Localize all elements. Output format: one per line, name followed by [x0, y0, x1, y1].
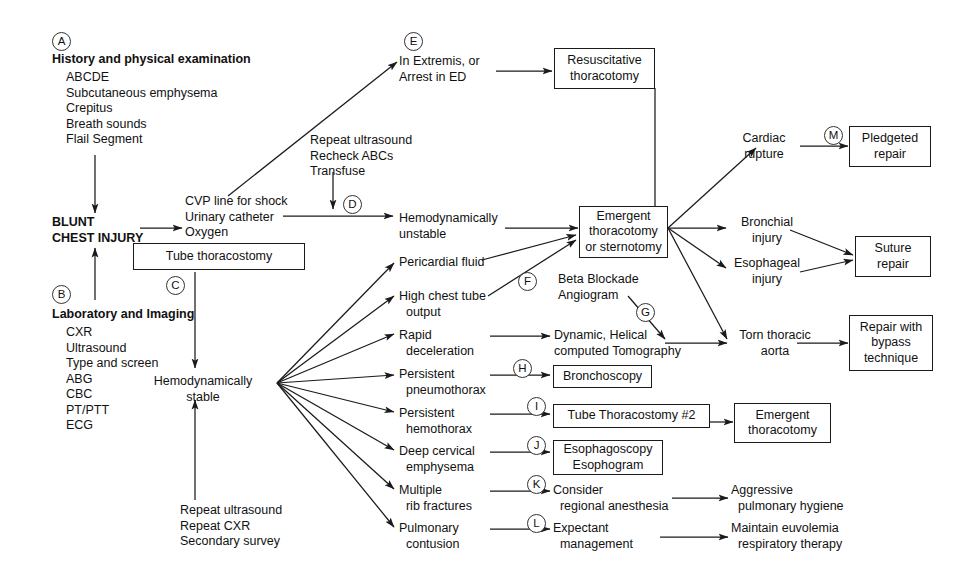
beta-blockade-angiogram-label: Beta Blockade Angiogram — [558, 272, 639, 303]
key-circle-l: L — [527, 514, 546, 533]
pledgeted-repair-box[interactable]: Pledgeted repair — [849, 126, 931, 167]
persistent-pneumothorax-label: Persistent pneumothorax — [399, 367, 486, 398]
key-circle-a: A — [52, 32, 71, 51]
esophageal-injury-label: Esophageal injury — [723, 256, 811, 287]
history-items: ABCDE Subcutaneous emphysema Crepitus Br… — [52, 70, 217, 148]
key-circle-m: M — [824, 126, 843, 145]
expectant-management-label: Expectant management — [553, 521, 633, 552]
cardiac-rupture-label: Cardiac rupture — [724, 131, 804, 162]
flowchart-canvas: A History and physical examination ABCDE… — [0, 0, 978, 585]
blunt-chest-injury-label: BLUNT CHEST INJURY — [52, 215, 143, 246]
deep-cervical-emphysema-label: Deep cervical emphysema — [399, 444, 475, 475]
key-circle-j: J — [527, 436, 546, 455]
key-circle-e: E — [404, 32, 423, 51]
tube-thoracostomy-box[interactable]: Tube thoracostomy — [133, 243, 305, 270]
bronchial-injury-label: Bronchial injury — [727, 215, 807, 246]
repeat-measures: Repeat ultrasound Recheck ABCs Transfuse — [310, 133, 412, 180]
repair-with-bypass-box[interactable]: Repair with bypass technique — [849, 315, 933, 371]
hemodynamically-stable-label: Hemodynamically stable — [133, 374, 273, 405]
esophagoscopy-esophogram-box[interactable]: Esophagoscopy Esophogram — [553, 440, 663, 475]
persistent-hemothorax-label: Persistent hemothorax — [399, 406, 472, 437]
tube-thoracostomy-2-box[interactable]: Tube Thoracostomy #2 — [553, 404, 710, 428]
key-circle-h: H — [513, 359, 532, 378]
repeat-survey-label: Repeat ultrasound Repeat CXR Secondary s… — [180, 503, 282, 550]
rapid-deceleration-label: Rapid deceleration — [399, 328, 474, 359]
high-chest-tube-output-label: High chest tube output — [399, 289, 486, 320]
dynamic-helical-ct-label: Dynamic, Helical computed Tomography — [554, 328, 681, 359]
history-heading: History and physical examination — [52, 52, 251, 68]
hemodynamically-unstable-label: Hemodynamically unstable — [399, 211, 498, 242]
lab-heading: Laboratory and Imaging — [52, 307, 194, 323]
emergent-thoracotomy-box[interactable]: Emergent thoracotomy — [734, 403, 831, 443]
key-circle-b: B — [52, 285, 71, 304]
consider-regional-anesthesia-label: Consider regional anesthesia — [553, 483, 668, 514]
initial-measures: CVP line for shock Urinary catheter Oxyg… — [185, 194, 288, 241]
key-circle-d: D — [343, 195, 362, 214]
resuscitative-thoracotomy-box[interactable]: Resuscitative thoracotomy — [554, 48, 655, 89]
key-circle-g: G — [636, 303, 655, 322]
multiple-rib-fractures-label: Multiple rib fractures — [399, 483, 472, 514]
suture-repair-box[interactable]: Suture repair — [855, 236, 931, 277]
key-circle-k: K — [527, 475, 546, 494]
aggressive-pulmonary-hygiene-label: Aggressive pulmonary hygiene — [731, 483, 844, 514]
emergent-thoracotomy-sternotomy-box[interactable]: Emergent thoracotomy or sternotomy — [579, 206, 668, 258]
key-circle-f: F — [518, 272, 537, 291]
maintain-euvolemia-label: Maintain euvolemia respiratory therapy — [731, 521, 842, 552]
pericardial-fluid-label: Pericardial fluid — [399, 255, 484, 271]
key-circle-i: I — [527, 397, 546, 416]
bronchoscopy-box[interactable]: Bronchoscopy — [553, 365, 652, 388]
pulmonary-contusion-label: Pulmonary contusion — [399, 521, 459, 552]
in-extremis-label: In Extremis, or Arrest in ED — [399, 54, 480, 85]
torn-thoracic-aorta-label: Torn thoracic aorta — [725, 328, 825, 359]
key-circle-c: C — [166, 276, 185, 295]
